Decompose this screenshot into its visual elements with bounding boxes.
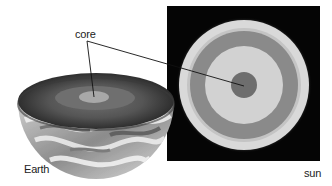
sun-panel xyxy=(167,6,320,161)
core-label: core xyxy=(75,28,96,40)
sun-label: sun xyxy=(304,167,321,179)
earth-sun-core-diagram: core Earth sun xyxy=(0,0,332,186)
sun-core xyxy=(231,72,257,98)
earth-label: Earth xyxy=(24,163,49,175)
diagram-canvas xyxy=(0,0,332,186)
